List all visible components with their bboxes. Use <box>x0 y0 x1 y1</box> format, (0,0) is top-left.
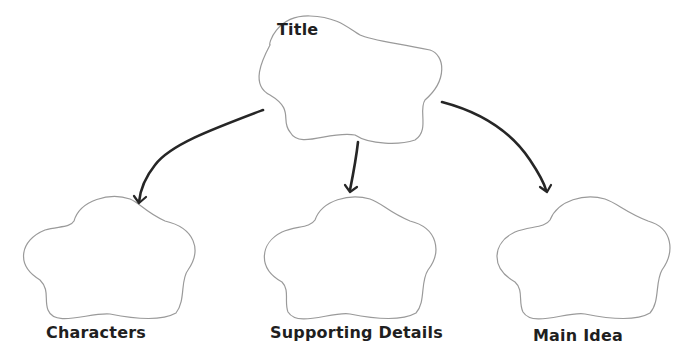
diagram-canvas <box>0 0 684 361</box>
main-idea-label: Main Idea <box>533 326 623 345</box>
characters-cloud <box>24 197 195 319</box>
supporting-details-cloud <box>264 197 435 319</box>
arrow-to-main-idea <box>442 102 546 190</box>
main-idea-cloud <box>497 197 670 319</box>
arrow-to-characters <box>139 110 263 202</box>
characters-label: Characters <box>46 323 146 342</box>
title-label: Title <box>277 20 318 39</box>
arrow-to-supporting-details <box>350 142 358 190</box>
supporting-details-label: Supporting Details <box>270 323 443 342</box>
